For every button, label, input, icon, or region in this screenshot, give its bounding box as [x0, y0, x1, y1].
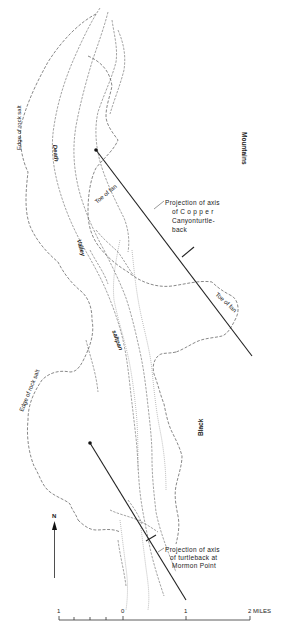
- map-labels: Edge of rock salt Death Valley saltpan M…: [16, 105, 248, 436]
- mormon-point-line-3: Mormon Point: [172, 562, 216, 569]
- label-edge-rock-salt-north: Edge of rock salt: [16, 105, 22, 150]
- label-mountains: Mountains: [241, 132, 248, 165]
- scale-label-1-left: 1: [57, 608, 61, 614]
- copper-canyon-line-1: Projection of axis: [165, 199, 220, 207]
- label-black: Black: [197, 418, 204, 436]
- mormon-point-axis: [88, 441, 186, 600]
- copper-canyon-line-2: of C o p p e r: [172, 208, 214, 216]
- geologic-map: Edge of rock salt Death Valley saltpan M…: [0, 0, 286, 632]
- saltpan-channel-lines: [52, 8, 176, 610]
- scale-label-1-right: 1: [184, 608, 188, 614]
- mormon-point-line-1: Projection of axis: [165, 546, 220, 554]
- label-valley: Valley: [76, 239, 86, 258]
- label-toe-of-fan-west: Toe of fan: [94, 183, 118, 205]
- north-arrow-label: N: [52, 513, 56, 519]
- mormon-point-annotation: Projection of axis of turtleback at Morm…: [165, 546, 220, 569]
- copper-canyon-line-4: back: [172, 226, 187, 233]
- copper-canyon-line-3: Canyonturtle-: [172, 217, 215, 225]
- scale-bar: 1 0 1 2 MILES: [57, 608, 271, 620]
- north-arrow: N: [52, 513, 57, 578]
- rock-salt-boundary: [20, 14, 238, 544]
- scale-label-0: 0: [121, 608, 125, 614]
- scale-label-2-miles: 2 MILES: [248, 608, 271, 614]
- north-arrow-icon: [52, 521, 57, 530]
- copper-canyon-annotation: Projection of axis of C o p p e r Canyon…: [165, 199, 220, 233]
- mormon-point-line-2: of turtleback at: [170, 554, 217, 561]
